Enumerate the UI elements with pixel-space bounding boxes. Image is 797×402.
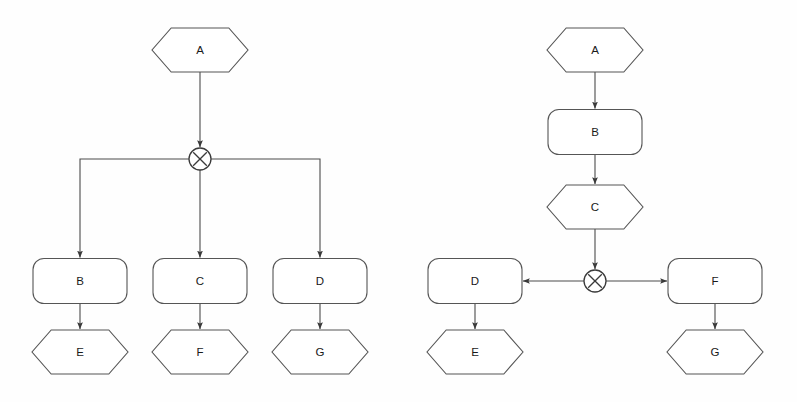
diagram-svg: ABCDEFG ABCDFEG [0,0,797,402]
edge-l-x-to-l-b [80,159,189,258]
node-a[interactable]: A [152,28,248,72]
edge-l-x-to-l-d [211,159,320,258]
node-label: E [471,346,479,358]
node-b[interactable]: B [33,259,127,304]
node-a[interactable]: A [547,28,643,72]
node-label: C [591,201,599,213]
node-d[interactable]: D [428,259,522,304]
right-diagram: ABCDFEG [427,28,763,374]
node-e[interactable]: E [427,330,523,374]
node-label: F [711,275,718,287]
node-label: G [711,346,720,358]
node-label: D [316,275,324,287]
node-operator[interactable] [584,270,606,292]
node-label: A [591,44,599,56]
node-label: E [76,346,84,358]
node-label: F [196,346,203,358]
node-f[interactable]: F [668,259,762,304]
node-c[interactable]: C [153,259,247,304]
node-g[interactable]: G [667,330,763,374]
node-e[interactable]: E [32,330,128,374]
node-label: C [196,275,204,287]
diagram-canvas: ABCDEFG ABCDFEG [0,0,797,402]
node-label: A [196,44,204,56]
node-label: G [316,346,325,358]
node-f[interactable]: F [152,330,248,374]
node-label: D [471,275,479,287]
left-diagram: ABCDEFG [32,28,368,374]
node-b[interactable]: B [548,110,642,155]
node-g[interactable]: G [272,330,368,374]
node-operator[interactable] [189,148,211,170]
node-label: B [76,275,84,287]
node-label: B [591,126,599,138]
node-d[interactable]: D [273,259,367,304]
node-c[interactable]: C [547,185,643,229]
